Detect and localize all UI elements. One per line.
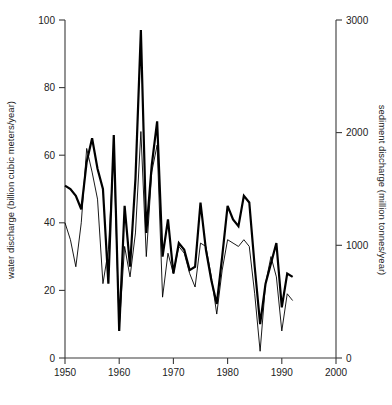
chart-figure: 0 20 40 60 80 100 0 1000 2000 3000 195 bbox=[0, 0, 392, 405]
right-tick-1000: 1000 bbox=[346, 240, 369, 251]
series-line-water-discharge bbox=[65, 30, 293, 331]
left-tick-20: 20 bbox=[44, 285, 56, 296]
x-tick-1990: 1990 bbox=[271, 367, 294, 378]
right-axis-ticks: 0 1000 2000 3000 bbox=[336, 15, 369, 364]
left-tick-80: 80 bbox=[44, 82, 56, 93]
bottom-axis-ticks: 1950 1960 1970 1980 1990 2000 bbox=[54, 358, 348, 378]
left-tick-40: 40 bbox=[44, 217, 56, 228]
left-tick-60: 60 bbox=[44, 150, 56, 161]
left-tick-100: 100 bbox=[38, 15, 55, 26]
right-tick-3000: 3000 bbox=[346, 15, 369, 26]
left-axis-title: water discharge (billion cubic meters/ye… bbox=[5, 101, 16, 280]
line-chart: 0 20 40 60 80 100 0 1000 2000 3000 195 bbox=[0, 0, 392, 405]
x-tick-1970: 1970 bbox=[162, 367, 185, 378]
x-tick-2000: 2000 bbox=[325, 367, 348, 378]
left-axis-ticks: 0 20 40 60 80 100 bbox=[38, 15, 65, 364]
x-tick-1960: 1960 bbox=[108, 367, 131, 378]
x-tick-1980: 1980 bbox=[216, 367, 239, 378]
right-tick-0: 0 bbox=[346, 353, 352, 364]
left-tick-0: 0 bbox=[49, 353, 55, 364]
x-tick-1950: 1950 bbox=[54, 367, 77, 378]
right-axis-title: sediment discharge (million tonnes/year) bbox=[377, 105, 388, 276]
right-tick-2000: 2000 bbox=[346, 127, 369, 138]
